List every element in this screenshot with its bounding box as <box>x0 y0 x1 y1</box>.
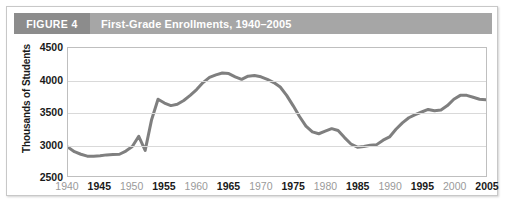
y-axis-tick-label: 4500 <box>40 41 63 53</box>
line-chart-svg <box>68 48 486 176</box>
figure-number-badge: FIGURE 4 <box>14 13 90 34</box>
x-axis-tick-label: 1960 <box>185 180 208 192</box>
y-axis-tick-label: 3000 <box>40 139 63 151</box>
plot-area <box>67 47 487 177</box>
x-axis-tick-label: 1995 <box>411 180 434 192</box>
enrollment-line <box>68 73 486 156</box>
x-axis-tick-label: 1945 <box>88 180 111 192</box>
y-axis-tick-labels: 25003000350040004500 <box>33 47 63 177</box>
figure-card: FIGURE 4 First-Grade Enrollments, 1940–2… <box>6 6 498 196</box>
chart-area: Thousands of Students 250030003500400045… <box>7 37 499 195</box>
gridline <box>68 81 486 82</box>
x-axis-tick-label: 1965 <box>217 180 240 192</box>
x-axis-tick-label: 2000 <box>443 180 466 192</box>
figure-header: FIGURE 4 First-Grade Enrollments, 1940–2… <box>14 13 492 34</box>
x-axis-tick-label: 1970 <box>249 180 272 192</box>
x-axis-tick-label: 2005 <box>475 180 498 192</box>
y-axis-tick-label: 3500 <box>40 106 63 118</box>
gridline <box>68 113 486 114</box>
x-axis-tick-label: 1975 <box>281 180 304 192</box>
x-axis-tick-label: 1985 <box>346 180 369 192</box>
gridline <box>68 146 486 147</box>
x-axis-tick-labels: 1940194519501955196019651970197519801985… <box>67 180 487 196</box>
x-axis-tick-label: 1980 <box>314 180 337 192</box>
x-axis-tick-label: 1940 <box>55 180 78 192</box>
figure-title: First-Grade Enrollments, 1940–2005 <box>90 13 492 34</box>
x-axis-tick-label: 1950 <box>120 180 143 192</box>
x-axis-tick-label: 1955 <box>152 180 175 192</box>
y-axis-tick-label: 4000 <box>40 74 63 86</box>
y-axis-title: Thousands of Students <box>21 34 32 164</box>
x-axis-tick-label: 1990 <box>378 180 401 192</box>
